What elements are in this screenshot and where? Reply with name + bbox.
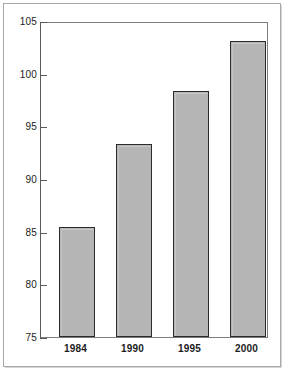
y-tick-label-85: 85 [3,228,37,238]
bar-2000[interactable] [230,41,266,337]
bar-chart: 105 100 95 90 85 80 75 [0,0,287,374]
y-tick-105 [40,22,47,23]
y-tick-label-100: 100 [3,70,37,80]
bar-1990[interactable] [116,144,152,337]
x-tick-label-2000: 2000 [211,343,282,354]
y-tick-label-80-wrap: 80 [0,280,37,290]
y-tick-label-100-wrap: 100 [0,70,37,80]
bar-1995[interactable] [173,91,209,337]
bar-1984-highlight [61,229,93,336]
y-tick-85 [40,233,47,234]
y-tick-label-75: 75 [3,333,37,343]
y-tick-label-95: 95 [3,122,37,132]
y-tick-label-85-wrap: 85 [0,228,37,238]
y-tick-label-75-wrap: 75 [0,333,37,343]
y-tick-label-105-wrap: 105 [0,17,37,27]
plot-area [40,22,268,338]
y-tick-label-80: 80 [3,280,37,290]
bar-1990-highlight [118,146,150,336]
y-tick-label-90: 90 [3,175,37,185]
y-tick-100 [40,75,47,76]
plot-inner [41,23,267,337]
bar-2000-highlight [232,43,264,336]
y-tick-label-105: 105 [3,17,37,27]
y-tick-95 [40,127,47,128]
bar-1984[interactable] [59,227,95,337]
y-tick-label-90-wrap: 90 [0,175,37,185]
y-tick-90 [40,180,47,181]
bar-1995-highlight [175,93,207,336]
y-tick-75 [40,338,47,339]
y-tick-80 [40,285,47,286]
y-tick-label-95-wrap: 95 [0,122,37,132]
